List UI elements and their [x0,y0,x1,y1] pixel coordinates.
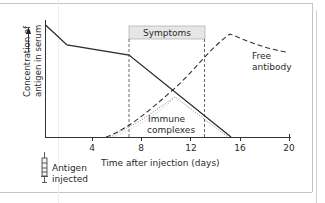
label-antigen-injected-2: injected [52,174,88,184]
label-antigen-injected-1: Antigen [52,163,87,173]
x-axis-label: Time after injection (days) [100,158,220,168]
label-free-antibody-1: Free [252,51,272,61]
y-axis-label: Concentration of antigen in serum [22,25,43,97]
svg-text:antigen in serum: antigen in serum [33,25,43,97]
svg-text:Concentration of: Concentration of [22,25,32,97]
chart-canvas: Symptoms 4 8 12 16 20 Time after injecti… [0,0,325,203]
tick-label-8: 8 [138,143,144,153]
syringe-icon [41,152,48,183]
label-immune-1: Immune [148,114,186,124]
tick-label-4: 4 [89,143,95,153]
symptoms-label: Symptoms [143,28,191,38]
series-free-antibody [106,34,286,137]
label-free-antibody-2: antibody [252,62,292,72]
tick-label-20: 20 [283,143,295,153]
series-antigen [46,25,232,137]
label-immune-2: complexes [147,125,195,135]
tick-label-16: 16 [234,143,246,153]
tick-label-12: 12 [185,143,196,153]
